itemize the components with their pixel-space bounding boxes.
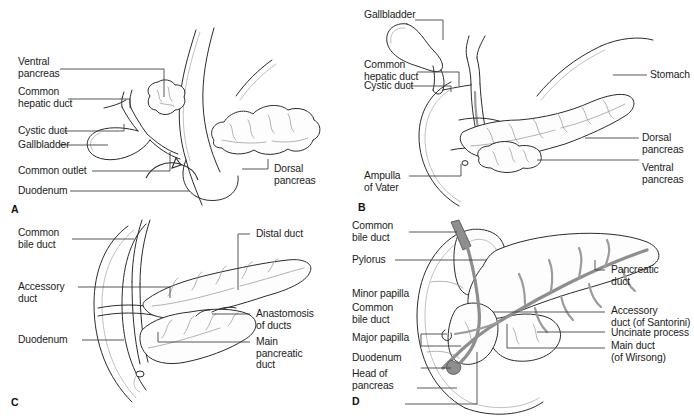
pancreas-development-figure: Ventral pancreas Common hepatic duct Cys… (0, 0, 694, 420)
label-ampulla-of-vater: Ampulla of Vater (364, 170, 401, 193)
label-head-of-pancreas: Head of pancreas (352, 368, 394, 391)
label-accessory-duct-santorini: Accessory duct (of Santorini) (611, 305, 690, 328)
label-major-papilla: Major papilla (352, 332, 409, 344)
label-dorsal-pancreas: Dorsal pancreas (642, 132, 684, 155)
label-duodenum: Duodenum (18, 334, 68, 346)
label-common-bile-duct-mid: Common bile duct (352, 302, 393, 325)
label-duodenum: Duodenum (18, 185, 68, 197)
label-pancreatic-duct: Pancreatic duct (611, 264, 659, 287)
panel-a: Ventral pancreas Common hepatic duct Cys… (0, 0, 347, 212)
label-minor-papilla: Minor papilla (352, 288, 409, 300)
label-anastomosis-of-ducts: Anastomosis of ducts (256, 308, 314, 331)
label-uncinate-process: Uncinate process (611, 327, 689, 339)
panel-letter-d: D (352, 395, 360, 407)
panel-b: Gallbladder Common hepatic duct Cystic d… (347, 0, 694, 212)
label-common-bile-duct: Common bile duct (18, 227, 59, 250)
label-ventral-pancreas: Ventral pancreas (18, 56, 60, 79)
label-distal-duct: Distal duct (256, 228, 303, 240)
label-dorsal-pancreas: Dorsal pancreas (274, 163, 316, 186)
label-main-pancreatic-duct: Main pancreatic duct (256, 336, 303, 371)
label-common-hepatic-duct: Common hepatic duct (18, 86, 72, 109)
label-gallbladder: Gallbladder (18, 139, 70, 151)
panel-letter-c: C (11, 396, 19, 408)
label-duodenum: Duodenum (352, 352, 402, 364)
label-stomach: Stomach (650, 69, 690, 81)
label-pylorus: Pylorus (352, 254, 386, 266)
label-common-hepatic-duct: Common hepatic duct (364, 59, 418, 82)
label-gallbladder: Gallbladder (364, 9, 416, 21)
panel-d: Common bile duct Pylorus Minor papilla C… (347, 212, 694, 420)
label-main-duct-wirsong: Main duct (of Wirsong) (611, 340, 666, 363)
label-common-bile-duct-top: Common bile duct (352, 220, 393, 243)
panel-c: Common bile duct Accessory duct Duodenum… (0, 212, 347, 420)
label-cystic-duct: Cystic duct (18, 125, 67, 137)
label-cystic-duct: Cystic duct (364, 80, 413, 92)
label-common-outlet: Common outlet (18, 165, 87, 177)
label-ventral-pancreas: Ventral pancreas (642, 162, 684, 185)
label-accessory-duct: Accessory duct (18, 281, 65, 304)
